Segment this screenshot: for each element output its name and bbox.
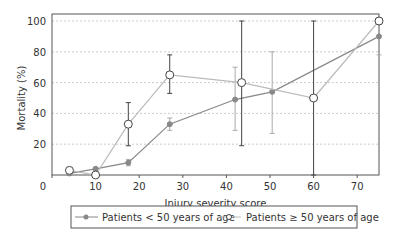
y-tick-label: 100 [27,16,46,27]
x-tick-label: 60 [307,181,320,192]
y-tick-label: 40 [33,108,46,119]
mortality-chart: 20406080100010203040506070Injury severit… [0,0,397,244]
x-tick-label: 0 [40,181,46,192]
series-line [69,21,379,175]
x-tick-label: 20 [133,181,146,192]
data-point [166,71,174,79]
data-point [167,122,172,127]
x-tick-label: 10 [89,181,102,192]
x-tick-label: 30 [176,181,189,192]
series-line [69,36,379,173]
legend-label: Patients < 50 years of age [102,212,235,223]
data-point [377,34,382,39]
legend-label: Patients ≥ 50 years of age [246,212,379,223]
data-point [92,171,100,179]
x-tick-label: 40 [220,181,233,192]
data-point [233,97,238,102]
x-tick-label: 50 [264,181,277,192]
data-point [310,94,318,102]
y-tick-label: 20 [33,139,46,150]
x-tick-label: 70 [351,181,364,192]
data-point [126,160,131,165]
data-point [238,79,246,87]
data-point [65,166,73,174]
y-axis-label: Mortality (%) [16,66,27,131]
y-tick-label: 80 [33,47,46,58]
plot-frame [52,14,379,175]
y-tick-label: 60 [33,78,46,89]
data-point [124,120,132,128]
data-point [375,17,383,25]
